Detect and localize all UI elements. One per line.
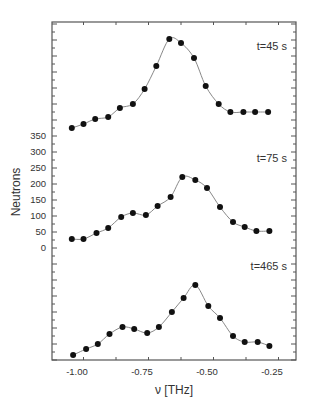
data-point [191,55,197,61]
data-point [92,116,98,122]
data-point [153,63,159,69]
data-point [168,194,174,200]
y-tick-label: 200 [30,178,46,189]
data-point [205,303,211,309]
data-point [70,352,76,358]
data-point [69,125,75,131]
data-point [105,114,111,120]
data-point [266,228,272,234]
data-point [203,83,209,89]
x-axis-title: ν [THz] [155,383,193,397]
data-point [107,331,113,337]
y-axis-title: Neutrons [9,168,23,217]
data-point [83,346,89,352]
y-tick-label: 50 [35,226,46,237]
data-point [192,282,198,288]
data-point [252,109,258,115]
y-tick-label: 0 [41,242,46,253]
data-point [156,324,162,330]
data-point [230,219,236,225]
data-point [142,86,148,92]
x-tick-label: -0.25 [261,366,283,377]
annotation-t75: t=75 s [257,152,288,164]
y-tick-label: 100 [30,210,46,221]
data-point [105,225,111,231]
data-point [240,109,246,115]
y-tick-label: 150 [30,194,46,205]
data-point [94,230,100,236]
annotation-t45: t=45 s [257,40,288,52]
data-point [117,105,123,111]
fit-curve [72,176,270,239]
data-point [120,324,126,330]
data-point [217,204,223,210]
data-point [95,341,101,347]
data-point [181,295,187,301]
fit-curve [73,285,269,355]
annotation-t465: t=465 s [251,260,288,272]
y-tick-label: 300 [30,146,46,157]
data-point [266,343,272,349]
data-point [166,36,172,42]
data-point [230,333,236,339]
data-point [242,224,248,230]
data-point [81,121,87,127]
x-tick-label: -0.50 [196,366,218,377]
y-tick-label: 250 [30,162,46,173]
data-point [265,109,271,115]
data-point [192,177,198,183]
data-point [253,228,259,234]
data-point [144,330,150,336]
neutron-spectra-chart: -1.00-0.75-0.50-0.2505010015020025030035… [0,0,314,414]
data-point [217,315,223,321]
fit-curve [72,38,268,128]
data-point [255,339,261,345]
data-point [131,326,137,332]
data-point [81,236,87,242]
data-point [242,339,248,345]
data-point [155,203,161,209]
data-point [216,101,222,107]
data-point [143,212,149,218]
data-point [118,214,124,220]
data-point [130,210,136,216]
data-point [179,174,185,180]
data-point [204,185,210,191]
y-tick-label: 350 [30,130,46,141]
data-point [169,309,175,315]
data-point [69,236,75,242]
x-tick-label: -0.75 [131,366,153,377]
data-point [178,40,184,46]
data-points [69,36,273,358]
data-point [227,109,233,115]
data-point [130,101,136,107]
x-tick-label: -1.00 [66,366,88,377]
